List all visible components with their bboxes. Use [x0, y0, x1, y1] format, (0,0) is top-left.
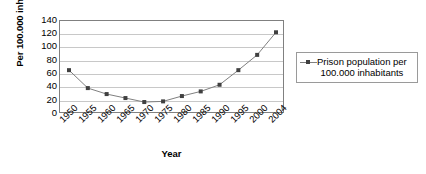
data-point — [67, 68, 71, 72]
data-point — [274, 30, 278, 34]
data-point — [86, 86, 90, 90]
y-tick-label: 60 — [31, 68, 57, 78]
legend-series-marker-icon — [300, 57, 317, 68]
data-point — [236, 68, 240, 72]
data-point — [255, 53, 259, 57]
y-tick-label: 40 — [31, 81, 57, 91]
data-point — [199, 89, 203, 93]
x-axis-title: Year — [59, 148, 284, 159]
legend-entry-line2: 100.000 inhabitants — [317, 67, 407, 78]
legend-entry-label: Prison population per 100.000 inhabitant… — [317, 56, 407, 78]
legend-square-icon — [306, 60, 310, 64]
legend-entry-line1: Prison population per — [317, 56, 407, 67]
y-tick-label: 80 — [31, 55, 57, 65]
chart-figure: Per 100.000 inhabitants 140 120 100 80 6… — [0, 0, 426, 174]
data-point — [105, 92, 109, 96]
y-tick-label: 120 — [31, 28, 57, 38]
y-tick-label: 140 — [31, 15, 57, 25]
legend: Prison population per 100.000 inhabitant… — [296, 52, 418, 83]
y-tick-label: 20 — [31, 95, 57, 105]
data-point — [218, 83, 222, 87]
y-tick-label: 100 — [31, 41, 57, 51]
y-axis-title: Per 100.000 inhabitants — [13, 0, 27, 68]
